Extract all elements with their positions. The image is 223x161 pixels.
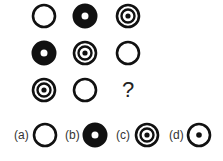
thick-donut-icon xyxy=(31,40,57,66)
thick-donut-icon xyxy=(72,3,98,29)
target-icon xyxy=(115,3,141,29)
option-label: (a) xyxy=(14,122,29,148)
ring-icon xyxy=(31,3,57,29)
target-icon xyxy=(31,77,57,103)
question-mark: ? xyxy=(115,77,141,103)
target-icon xyxy=(72,40,98,66)
ring-icon xyxy=(115,40,141,66)
option-label: (c) xyxy=(116,122,130,148)
target-icon xyxy=(134,122,160,148)
ring-dot-icon xyxy=(186,122,212,148)
ring-icon xyxy=(72,77,98,103)
option-label: (d) xyxy=(169,122,184,148)
option-label: (b) xyxy=(65,122,80,148)
thick-donut-icon xyxy=(82,122,108,148)
ring-icon xyxy=(32,122,58,148)
